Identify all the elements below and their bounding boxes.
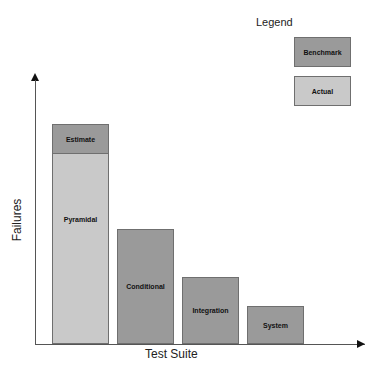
bar-pyramidal: Pyramidal xyxy=(52,153,109,344)
x-axis-label: Test Suite xyxy=(145,347,198,361)
x-axis-arrow-icon xyxy=(357,340,365,348)
bar-system: System xyxy=(247,306,304,344)
bar-conditional: Conditional xyxy=(117,229,174,344)
bar-integration: Integration xyxy=(182,277,239,344)
y-axis-label: Failures xyxy=(10,195,24,245)
y-axis xyxy=(35,80,36,345)
bar-pyramidal-estimate: Estimate xyxy=(52,124,109,154)
x-axis xyxy=(35,344,365,345)
legend-actual: Actual xyxy=(294,76,351,106)
legend-benchmark: Benchmark xyxy=(294,37,351,67)
legend-title: Legend xyxy=(256,16,293,28)
